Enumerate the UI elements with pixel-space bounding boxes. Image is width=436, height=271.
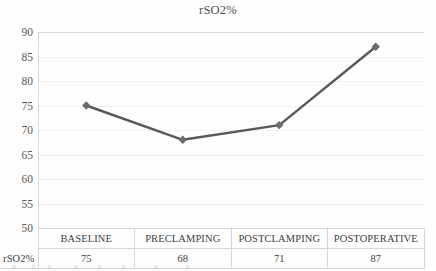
table-value-cell: 87 — [328, 249, 425, 269]
data-table: BASELINE PRECLAMPING POSTCLAMPING POSTOP… — [0, 228, 425, 269]
y-axis-tick-label: 75 — [0, 100, 33, 112]
chart-title: rSO2% — [0, 3, 436, 18]
table-header-cell: PRECLAMPING — [135, 229, 232, 249]
table-value-cell: 71 — [231, 249, 328, 269]
series-polyline — [86, 47, 376, 140]
data-point-marker — [82, 101, 90, 109]
table-row-headers: BASELINE PRECLAMPING POSTCLAMPING POSTOP… — [0, 229, 424, 249]
y-axis-tick-label: 60 — [0, 173, 33, 185]
chart-screenshot: rSO2% 505560657075808590 BASELINE PRECLA… — [0, 0, 436, 271]
data-series-line — [38, 32, 424, 228]
table-header-cell: POSTOPERATIVE — [328, 229, 425, 249]
y-axis-tick-label: 70 — [0, 124, 33, 136]
table-header-cell: BASELINE — [38, 229, 135, 249]
table-corner-cell — [0, 229, 38, 249]
data-point-marker — [179, 136, 187, 144]
y-axis-tick-label: 85 — [0, 51, 33, 63]
y-axis-tick-label: 65 — [0, 149, 33, 161]
y-axis-tick-label: 80 — [0, 75, 33, 87]
y-axis-tick-label: 55 — [0, 198, 33, 210]
cropped-caption-artifact — [2, 265, 234, 269]
table-header-cell: POSTCLAMPING — [231, 229, 328, 249]
y-axis-tick-label: 90 — [0, 26, 33, 38]
